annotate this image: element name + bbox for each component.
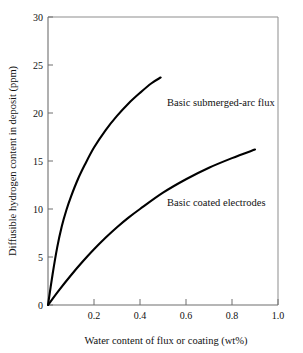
chart-background (0, 0, 303, 353)
y-tick-label-5: 5 (38, 252, 43, 263)
x-tick-label-0-8: 0.8 (226, 310, 239, 321)
y-tick-label-0: 0 (38, 300, 43, 311)
x-axis-title: Water content of flux or coating (wt%) (84, 335, 248, 347)
x-tick-label-1-0: 1.0 (272, 310, 285, 321)
y-tick-label-25: 25 (33, 60, 43, 71)
x-tick-label-0-6: 0.6 (180, 310, 193, 321)
y-axis-title: Diffusible hydrogen content in deposit (… (7, 65, 19, 256)
chart-svg: 0 5 10 15 20 25 30 0.2 0.4 0.6 0.8 1.0 B… (0, 0, 303, 353)
y-tick-label-10: 10 (33, 204, 43, 215)
x-tick-label-0-2: 0.2 (88, 310, 101, 321)
y-tick-label-30: 30 (33, 12, 43, 23)
chart-figure: 0 5 10 15 20 25 30 0.2 0.4 0.6 0.8 1.0 B… (0, 0, 303, 353)
annotation-basic-coated-electrodes: Basic coated electrodes (167, 197, 266, 208)
y-tick-label-15: 15 (33, 156, 43, 167)
x-tick-label-0-4: 0.4 (134, 310, 147, 321)
y-tick-label-20: 20 (33, 108, 43, 119)
annotation-basic-submerged-arc-flux: Basic submerged-arc flux (167, 97, 275, 108)
